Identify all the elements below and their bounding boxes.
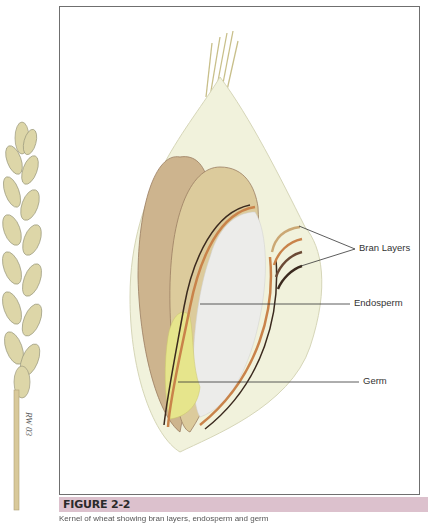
signature: RW 03 [24,411,34,437]
label-germ: Germ [363,375,387,386]
label-endosperm: Endosperm [354,297,403,308]
label-bran-layers: Bran Layers [359,242,410,253]
figure-caption-bar: FIGURE 2-2 [59,497,428,512]
figure-number: FIGURE 2-2 [63,498,130,511]
figure-frame: Bran Layers Endosperm Germ [59,6,420,495]
figure-caption-text: Kernel of wheat showing bran layers, end… [59,514,268,523]
wheat-stalk-illustration: RW 03 [0,120,56,515]
